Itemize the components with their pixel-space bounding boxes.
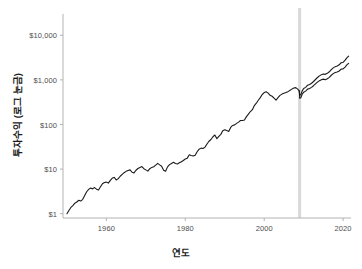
y-tick-label: $100 bbox=[0, 120, 57, 129]
y-tick-label: $10 bbox=[0, 165, 57, 174]
x-axis-label: 연도 bbox=[0, 245, 362, 259]
crisis-band bbox=[298, 8, 301, 218]
series-line-main bbox=[67, 88, 299, 214]
data-series bbox=[67, 56, 349, 214]
chart-figure: 투자수익 (로그 눈금) 연도 $1$10$100$1,000$10,000 1… bbox=[0, 0, 362, 269]
x-tick-label: 2000 bbox=[256, 224, 273, 233]
x-tick-label: 1960 bbox=[98, 224, 115, 233]
x-tick-label: 1980 bbox=[177, 224, 194, 233]
y-tick-label: $1,000 bbox=[0, 75, 57, 84]
axis-spines bbox=[63, 14, 351, 218]
y-axis-label: 투자수익 (로그 눈금) bbox=[10, 73, 24, 157]
annotation-bands bbox=[298, 8, 301, 218]
y-tick-label: $1 bbox=[0, 209, 57, 218]
y-tick-label: $10,000 bbox=[0, 31, 57, 40]
x-tick-label: 2020 bbox=[335, 224, 352, 233]
series-line-branch-lower bbox=[299, 63, 348, 98]
